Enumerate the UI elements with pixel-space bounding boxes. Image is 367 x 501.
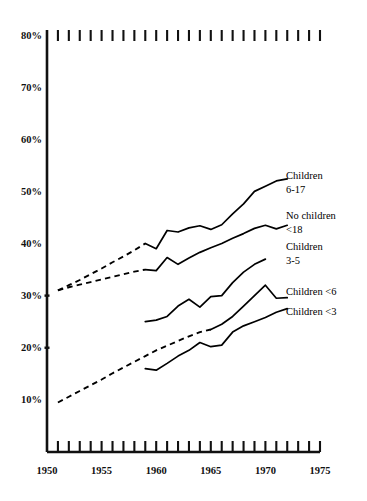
y-axis-tick-label: 40% bbox=[21, 238, 42, 249]
line-chart: 10%20%30%40%50%60%70%80% 195019551960196… bbox=[0, 0, 367, 501]
y-axis-tick-label: 20% bbox=[21, 342, 42, 353]
series-label-line2: 3-5 bbox=[286, 255, 300, 266]
y-axis-tick-label: 30% bbox=[21, 290, 42, 301]
y-axis-tick-label: 60% bbox=[21, 134, 42, 145]
series-label-line2: 6-17 bbox=[286, 184, 305, 195]
series-label: Children bbox=[286, 241, 323, 252]
chart-container: 10%20%30%40%50%60%70%80% 195019551960196… bbox=[0, 0, 367, 501]
y-axis-tick-label: 10% bbox=[21, 394, 42, 405]
series-label: Children <3 bbox=[286, 306, 337, 317]
x-axis-tick-label: 1975 bbox=[310, 465, 331, 476]
x-axis-tick-label: 1960 bbox=[146, 465, 167, 476]
x-axis-tick-label: 1955 bbox=[91, 465, 112, 476]
series-label: Children bbox=[286, 170, 323, 181]
x-axis-tick-label: 1965 bbox=[200, 465, 221, 476]
series-label-line2: <18 bbox=[286, 224, 302, 235]
series-label: Children <6 bbox=[286, 286, 337, 297]
y-axis-tick-label: 70% bbox=[21, 82, 42, 93]
y-axis-tick-label: 50% bbox=[21, 186, 42, 197]
series-label: No children bbox=[286, 210, 337, 221]
x-axis-tick-label: 1970 bbox=[255, 465, 276, 476]
x-axis-tick-label: 1950 bbox=[37, 465, 58, 476]
y-axis-tick-label: 80% bbox=[21, 30, 42, 41]
